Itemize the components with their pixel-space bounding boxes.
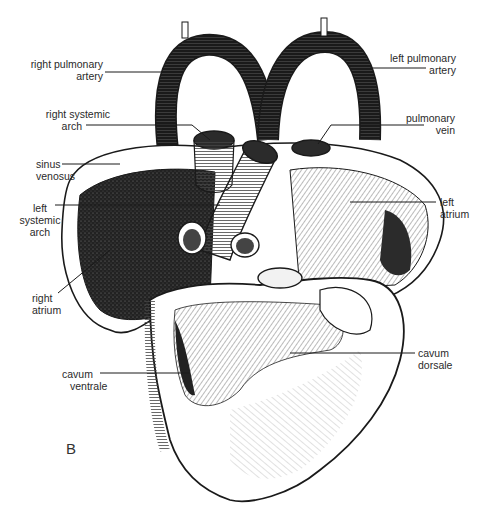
label-right-pulmonary-artery: right pulmonary artery xyxy=(10,58,103,82)
label-line: right pulmonary xyxy=(10,58,103,70)
label-line: cavum xyxy=(62,368,107,380)
label-line: arch xyxy=(18,226,62,238)
label-right-atrium: right atrium xyxy=(32,292,61,316)
label-line: left pulmonary xyxy=(390,52,456,64)
label-line: sinus xyxy=(36,158,75,170)
label-line: ventrale xyxy=(70,380,107,392)
ventricle xyxy=(150,278,404,501)
label-line: venosus xyxy=(36,170,75,182)
label-line: artery xyxy=(10,70,103,82)
panel-letter: B xyxy=(66,440,76,457)
label-line: atrium xyxy=(32,304,61,316)
label-line: right xyxy=(32,292,61,304)
label-right-systemic-arch: right systemic arch xyxy=(10,108,110,132)
label-pulmonary-vein: pulmonary vein xyxy=(395,112,455,136)
label-line: dorsale xyxy=(418,359,452,371)
label-line: left xyxy=(18,202,62,214)
label-left-systemic-arch: left systemic arch xyxy=(18,202,62,238)
label-line: left xyxy=(440,196,469,208)
label-line: right systemic xyxy=(10,108,110,120)
label-cavum-dorsale: cavum dorsale xyxy=(418,347,452,371)
label-sinus-venosus: sinus venosus xyxy=(36,158,75,182)
pulmonary-arches xyxy=(166,18,370,150)
label-left-atrium: left atrium xyxy=(440,196,469,220)
label-left-pulmonary-artery: left pulmonary artery xyxy=(390,52,456,76)
label-line: cavum xyxy=(418,347,452,359)
label-line: systemic xyxy=(18,214,62,226)
label-cavum-ventrale: cavum ventrale xyxy=(62,368,107,392)
label-line: pulmonary xyxy=(395,112,455,124)
label-line: vein xyxy=(395,124,455,136)
label-line: artery xyxy=(390,64,456,76)
label-line: atrium xyxy=(440,208,469,220)
label-line: arch xyxy=(10,120,82,132)
